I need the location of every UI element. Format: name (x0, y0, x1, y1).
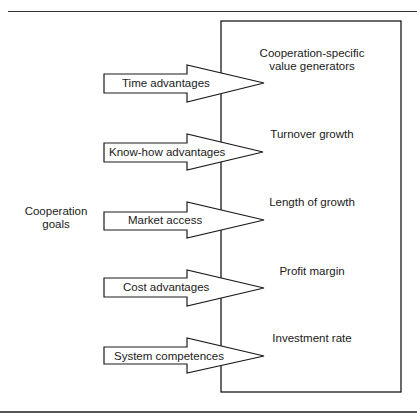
left-label-line2: goals (25, 218, 88, 231)
arrow-label-system-competences: System competences (114, 350, 224, 363)
arrow-label-cost-advantages: Cost advantages (123, 281, 209, 294)
item-turnover-growth: Turnover growth (270, 128, 353, 141)
left-label-line1: Cooperation (25, 205, 88, 218)
arrow-label-know-how-advantages: Know-how advantages (109, 146, 225, 159)
item-profit-margin: Profit margin (279, 265, 344, 278)
box-title-line1: Cooperation-specific (260, 47, 365, 60)
item-length-of-growth: Length of growth (269, 196, 355, 209)
arrow-label-time-advantages: Time advantages (122, 77, 210, 90)
cooperation-goals-label: Cooperation goals (25, 205, 88, 231)
box-title: Cooperation-specific value generators (260, 47, 365, 73)
box-title-line2: value generators (260, 60, 365, 73)
arrow-label-market-access: Market access (128, 214, 202, 227)
item-investment-rate: Investment rate (272, 332, 351, 345)
